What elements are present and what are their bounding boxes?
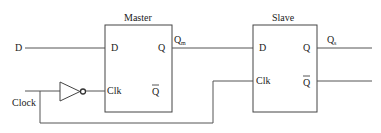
master-output-subscript: m <box>181 40 186 46</box>
slave-title: Slave <box>272 12 295 23</box>
master-flip-flop <box>105 25 172 112</box>
inverter-bubble <box>81 89 86 94</box>
slave-pin-qbar: Q <box>303 77 311 88</box>
slave-output-subscript: s <box>334 40 337 46</box>
slave-flip-flop <box>253 25 317 112</box>
master-pin-qbar: Q <box>152 86 160 97</box>
slave-pin-clk: Clk <box>256 75 270 86</box>
master-title: Master <box>124 12 152 23</box>
slave-pin-q: Q <box>303 42 311 53</box>
d-input-label: D <box>15 42 22 53</box>
master-pin-q: Q <box>158 42 166 53</box>
slave-pin-d: D <box>259 42 266 53</box>
inverter-gate <box>60 82 80 101</box>
clock-input-label: Clock <box>12 97 36 108</box>
master-pin-clk: Clk <box>107 85 121 96</box>
flip-flop-diagram: D Master D Clk Q Q Q m Clock Slave D Clk… <box>0 0 381 133</box>
master-pin-d: D <box>111 42 118 53</box>
